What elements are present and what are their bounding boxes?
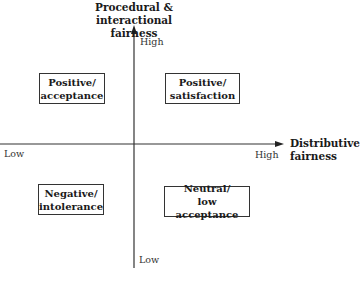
quadrant-line1: Positive/: [48, 76, 96, 89]
y-axis-title-line2: interactional fairness: [74, 14, 194, 40]
quadrant-line1: Positive/: [179, 76, 227, 89]
x-axis-title: Distributive fairness: [290, 137, 360, 163]
x-axis-high-label: High: [255, 149, 279, 160]
quadrant-line2: intolerance: [39, 200, 103, 213]
quadrant-line1: Neutral/: [184, 182, 231, 195]
y-axis-high-label: High: [140, 36, 164, 47]
quadrant-box-neutral-low-acceptance: Neutral/ low acceptance: [164, 186, 250, 217]
quadrant-line2: low acceptance: [165, 195, 249, 221]
y-axis-low-label: Low: [139, 254, 159, 265]
x-axis-arrowhead-icon: [275, 141, 284, 147]
quadrant-line2: acceptance: [41, 89, 104, 102]
quadrant-box-positive-acceptance: Positive/ acceptance: [39, 73, 105, 104]
quadrant-box-positive-satisfaction: Positive/ satisfaction: [165, 73, 240, 104]
quadrant-line1: Negative/: [44, 187, 97, 200]
y-axis-title-line1: Procedural &: [74, 1, 194, 14]
quadrant-line2: satisfaction: [170, 89, 235, 102]
x-axis-title-line1: Distributive: [290, 137, 360, 150]
x-axis-low-label: Low: [4, 148, 24, 159]
x-axis-title-line2: fairness: [290, 150, 360, 163]
y-axis-title: Procedural & interactional fairness: [74, 1, 194, 40]
quadrant-box-negative-intolerance: Negative/ intolerance: [38, 184, 104, 215]
